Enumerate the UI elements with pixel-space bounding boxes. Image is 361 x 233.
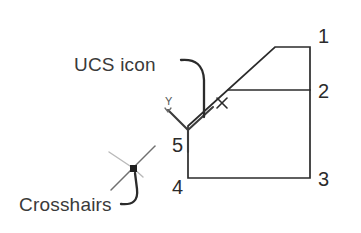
pick-point-marker-icon xyxy=(217,98,227,108)
crosshairs-cursor-icon xyxy=(109,146,155,190)
annotation-label-ucs-icon: UCS icon xyxy=(74,54,156,75)
vertex-label-4: 4 xyxy=(172,176,183,198)
vertex-label-1: 1 xyxy=(318,25,329,47)
annotation-label-crosshairs: Crosshairs xyxy=(19,194,112,215)
crosshair-pickbox xyxy=(130,165,137,172)
vertex-label-5: 5 xyxy=(172,134,183,156)
vertex-label-3: 3 xyxy=(318,168,329,190)
crosshair-arm-lower-left xyxy=(111,168,133,190)
crosshair-arm-upper-right xyxy=(133,146,155,168)
figure-canvas: Y UCS icon Crosshairs 1 2 3 4 5 xyxy=(0,0,361,233)
vertex-label-2: 2 xyxy=(318,80,329,102)
leader-line-ucs-icon xyxy=(181,60,204,117)
ucs-y-axis-label: Y xyxy=(165,95,173,107)
technical-drawing-svg: Y UCS icon Crosshairs 1 2 3 4 5 xyxy=(0,0,361,233)
crosshair-arm-upper-left xyxy=(109,152,133,168)
